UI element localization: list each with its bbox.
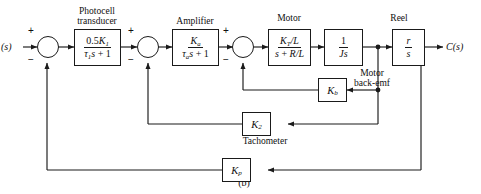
motor-block[interactable]: KT/L s + R/L [268, 29, 311, 66]
reel-transfer-function: r s [405, 36, 413, 59]
caption-reel: Reel [390, 13, 407, 23]
caption-tachometer: Tachometer [243, 136, 288, 146]
summing-junction-1 [37, 36, 59, 58]
caption-amplifier: Amplifier [176, 16, 213, 26]
position-feedback-gain-block[interactable]: Kp [222, 158, 251, 182]
tachometer-gain-label: K2 [251, 119, 262, 130]
block-diagram-figure: Photocell transducer Amplifier Motor Ree… [0, 0, 481, 194]
tachometer-gain-block[interactable]: K2 [242, 112, 271, 136]
back-emf-gain-label: Kb [327, 85, 338, 96]
amplifier-transfer-function: Ka τas + 1 [180, 36, 211, 59]
node-dot-inertia-output [376, 45, 381, 50]
caption-photocell-transducer: Photocell transducer [77, 6, 117, 27]
inertia-block[interactable]: 1 Js [324, 29, 363, 66]
summing-junction-2 [137, 36, 159, 58]
summing-junction-3 [232, 36, 254, 58]
sum1-plus-sign: + [28, 26, 34, 37]
reel-block[interactable]: r s [392, 29, 425, 66]
photocell-transfer-function: 0.5K1 τ1s + 1 [82, 36, 113, 59]
caption-motor-back-emf: Motor back-emf [354, 68, 390, 89]
inertia-transfer-function: 1 Js [337, 36, 349, 59]
motor-transfer-function: KT/L s + R/L [273, 36, 306, 59]
position-feedback-gain-label: Kp [231, 165, 242, 176]
input-signal-label: (s) [1, 41, 12, 52]
back-emf-gain-block[interactable]: Kb [318, 78, 347, 102]
caption-motor: Motor [277, 13, 301, 23]
sum2-minus-sign: − [128, 55, 134, 66]
sum3-plus-sign: + [223, 26, 229, 37]
sum3-minus-sign: − [223, 55, 229, 66]
output-signal-label: C(s) [446, 41, 463, 52]
sum2-plus-sign: + [128, 26, 134, 37]
amplifier-block[interactable]: Ka τas + 1 [172, 29, 219, 66]
sum1-minus-sign: − [28, 55, 34, 66]
photocell-transducer-block[interactable]: 0.5K1 τ1s + 1 [74, 29, 121, 66]
